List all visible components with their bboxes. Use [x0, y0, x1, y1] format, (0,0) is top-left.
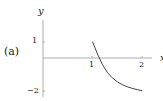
- chart-plot: [0, 0, 163, 101]
- panel-label: (a): [4, 46, 19, 57]
- x-tick-label-1: 1: [89, 61, 94, 69]
- y-tick-label-neg2: −2: [27, 87, 39, 95]
- x-tick-label-2: 2: [139, 61, 144, 69]
- y-axis-label: y: [38, 6, 44, 16]
- y-tick-label-1: 1: [32, 37, 37, 45]
- data-curve: [93, 42, 143, 91]
- y-tick-label-neg2-num: 2: [34, 86, 39, 95]
- x-axis-label: x: [160, 54, 163, 63]
